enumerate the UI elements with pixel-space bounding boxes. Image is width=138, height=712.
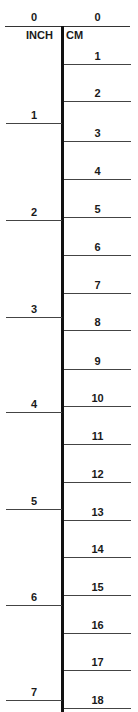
- cm-tick-line: [64, 179, 131, 180]
- inch-tick-label: 7: [6, 687, 62, 698]
- cm-tick-line: [64, 369, 131, 370]
- cm-tick-line: [64, 708, 131, 709]
- inch-tick-line: [6, 123, 62, 124]
- cm-tick-label: 6: [64, 242, 131, 253]
- cm-tick-line: [64, 255, 131, 256]
- cm-tick-line: [64, 141, 131, 142]
- cm-tick-line: [64, 595, 131, 596]
- cm-zero-label: 0: [64, 12, 131, 23]
- cm-tick-label: 3: [64, 128, 131, 139]
- cm-tick-label: 2: [64, 88, 131, 99]
- cm-tick-label: 16: [64, 620, 131, 631]
- cm-tick-line: [64, 330, 131, 331]
- cm-unit-label: CM: [66, 30, 83, 41]
- cm-tick-label: 18: [64, 695, 131, 706]
- cm-tick-label: 11: [64, 431, 131, 442]
- cm-tick-label: 5: [64, 204, 131, 215]
- cm-tick-line: [64, 101, 131, 102]
- cm-tick-line: [64, 670, 131, 671]
- cm-tick-label: 1: [64, 51, 131, 62]
- inch-tick-label: 6: [6, 592, 62, 603]
- inch-tick-line: [6, 700, 62, 701]
- cm-tick-line: [64, 633, 131, 634]
- cm-tick-label: 4: [64, 166, 131, 177]
- inch-tick-label: 3: [6, 304, 62, 315]
- cm-tick-label: 7: [64, 280, 131, 291]
- cm-tick-label: 13: [64, 507, 131, 518]
- inch-tick-label: 4: [6, 399, 62, 410]
- inch-cm-ruler: 0 0 INCH CM 123456789101112131415161718 …: [0, 0, 138, 712]
- inch-tick-label: 2: [6, 207, 62, 218]
- inch-tick-line: [6, 605, 62, 606]
- cm-tick-line: [64, 444, 131, 445]
- cm-tick-line: [64, 217, 131, 218]
- cm-tick-line: [64, 64, 131, 65]
- inch-zero-label: 0: [6, 12, 62, 23]
- inch-tick-line: [6, 509, 62, 510]
- cm-tick-label: 8: [64, 317, 131, 328]
- inch-tick-line: [6, 220, 62, 221]
- cm-tick-label: 15: [64, 582, 131, 593]
- inch-tick-line: [6, 412, 62, 413]
- cm-tick-label: 12: [64, 469, 131, 480]
- cm-tick-line: [64, 520, 131, 521]
- inch-tick-label: 5: [6, 496, 62, 507]
- inch-tick-line: [6, 317, 62, 318]
- cm-tick-label: 14: [64, 544, 131, 555]
- cm-tick-line: [64, 406, 131, 407]
- cm-tick-line: [64, 557, 131, 558]
- cm-tick-label: 10: [64, 393, 131, 404]
- inch-tick-label: 1: [6, 110, 62, 121]
- cm-tick-line: [64, 482, 131, 483]
- cm-tick-label: 9: [64, 356, 131, 367]
- zero-line: [5, 26, 130, 27]
- inch-unit-label: INCH: [26, 30, 53, 41]
- cm-tick-line: [64, 293, 131, 294]
- cm-tick-label: 17: [64, 657, 131, 668]
